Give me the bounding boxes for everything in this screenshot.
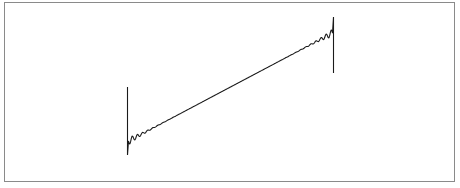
plot-area xyxy=(0,0,460,188)
sawtooth-fourier-curve xyxy=(128,17,334,155)
